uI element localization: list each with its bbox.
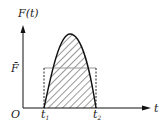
t2-label: t2	[93, 108, 101, 121]
y-axis-arrow-icon	[21, 25, 26, 33]
origin-label: O	[11, 108, 20, 121]
y-axis-label: F(t)	[17, 7, 39, 20]
t1-label: t1	[41, 108, 49, 121]
average-force-label: F̄	[10, 62, 19, 75]
impulse-diagram: F(t) t O F̄ t1 t2	[0, 0, 168, 130]
x-axis-arrow-icon	[142, 106, 151, 111]
x-axis-label: t	[154, 102, 159, 115]
